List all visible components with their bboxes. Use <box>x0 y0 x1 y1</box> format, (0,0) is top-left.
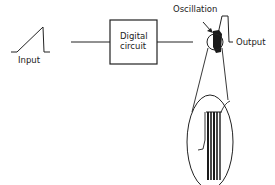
box-label-line1: Digital <box>120 31 148 41</box>
output-label: Output <box>236 37 266 47</box>
input-ramp-waveform <box>11 27 50 52</box>
oscillation-traces <box>206 112 222 180</box>
input-label: Input <box>18 55 41 65</box>
diagram-svg: Input Digital circuit Oscillation Output <box>0 0 275 185</box>
diagram-canvas: Input Digital circuit Oscillation Output <box>0 0 275 185</box>
oscillation-label: Oscillation <box>173 4 217 14</box>
box-label-line2: circuit <box>120 41 147 51</box>
magnified-view <box>187 95 233 185</box>
oscillation-arrow <box>203 22 213 33</box>
